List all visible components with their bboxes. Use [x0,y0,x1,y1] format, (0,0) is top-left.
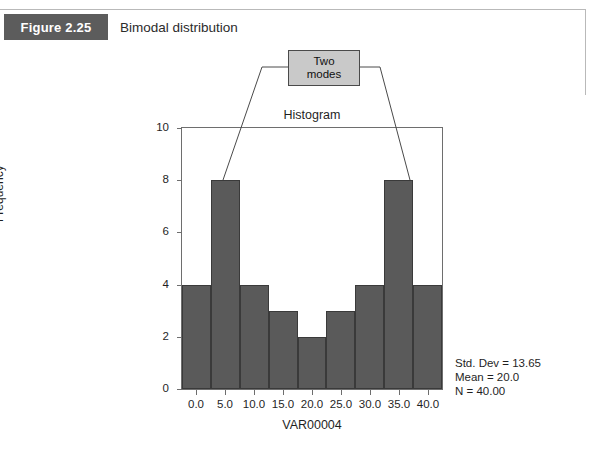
statistics-block: Std. Dev = 13.65 Mean = 20.0 N = 40.00 [455,356,541,398]
y-axis-tick [177,285,182,286]
x-axis-tick [254,390,255,395]
y-axis-tick [177,389,182,390]
chart-title: Histogram [181,108,443,122]
figure-caption: Bimodal distribution [120,14,238,40]
x-axis-tick [196,390,197,395]
x-axis-tick [312,390,313,395]
two-modes-callout: Two modes [288,50,360,86]
histogram-bars [182,128,442,389]
y-axis-tick-label: 6 [139,225,169,237]
y-axis-tick [177,337,182,338]
x-axis-tick [428,390,429,395]
histogram-bar [211,180,240,389]
y-axis-tick-label: 10 [139,121,169,133]
y-axis-tick-label: 2 [139,330,169,342]
x-axis-tick [370,390,371,395]
histogram-bar [182,285,211,389]
x-axis-title: VAR00004 [181,418,443,432]
figure-page: Figure 2.25 Bimodal distribution Histogr… [0,0,606,450]
histogram-bar [355,285,384,389]
y-axis-title: Frequency [0,165,6,222]
histogram-bar [240,285,269,389]
y-axis-tick-label: 4 [139,278,169,290]
x-axis-tick [341,390,342,395]
y-axis-tick [177,180,182,181]
callout-line-1: Two [313,55,334,68]
callout-line-2: modes [307,68,342,81]
histogram-bar [269,311,298,389]
page-frame-top-rule [0,9,586,10]
std-dev-value: Std. Dev = 13.65 [455,356,541,370]
n-value: N = 40.00 [455,384,541,398]
mean-value: Mean = 20.0 [455,370,541,384]
histogram-bar [298,337,327,389]
y-axis-tick [177,232,182,233]
y-axis-tick-label: 0 [139,382,169,394]
y-axis-tick-label: 8 [139,173,169,185]
page-frame-right-rule [585,9,586,95]
y-axis-tick [177,128,182,129]
histogram-bar [326,311,355,389]
histogram-bar [413,285,442,389]
x-axis-tick [283,390,284,395]
histogram-bar [384,180,413,389]
x-axis-tick [225,390,226,395]
x-axis-tick [399,390,400,395]
x-axis-tick-label: 40.0 [408,398,448,410]
figure-number-badge: Figure 2.25 [4,14,108,40]
